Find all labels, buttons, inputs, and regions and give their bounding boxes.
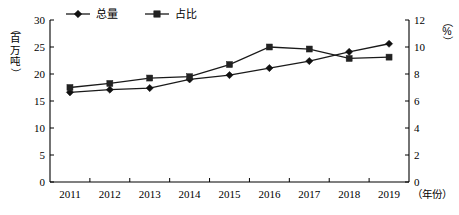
data-point-marker <box>106 86 113 93</box>
series-line <box>70 44 389 93</box>
left-axis-tick-label: 10 <box>34 122 46 134</box>
x-axis-tick-label: 2015 <box>219 188 242 200</box>
left-axis-tick-label: 30 <box>34 14 46 26</box>
chart-legend: 总量占比 <box>66 7 197 20</box>
x-axis-tick-label: 2011 <box>59 188 81 200</box>
series-total <box>66 40 392 96</box>
x-axis-unit-label: （年份） <box>412 188 452 200</box>
category-axis: 201120122013201420152016201720182019（年份） <box>50 178 452 200</box>
data-point-marker <box>266 44 272 50</box>
data-point-marker <box>306 57 313 64</box>
left-axis-tick-label: 0 <box>40 176 46 188</box>
data-point-marker <box>146 84 153 91</box>
right-value-axis: 024681012 <box>405 14 426 188</box>
x-axis-tick-label: 2017 <box>298 188 321 200</box>
data-point-marker <box>147 75 153 81</box>
right-axis-tick-label: 10 <box>414 41 426 53</box>
legend-marker-diamond-icon <box>74 10 82 18</box>
x-axis-tick-label: 2019 <box>378 188 401 200</box>
data-point-marker <box>67 85 73 91</box>
data-point-marker <box>346 55 352 61</box>
left-axis-tick-label: 25 <box>34 41 46 53</box>
legend-label: 占比 <box>175 7 197 20</box>
left-axis-tick-label: 20 <box>34 68 46 80</box>
data-point-marker <box>226 71 233 78</box>
data-point-marker <box>266 64 273 71</box>
chart-container: （ 百 万 吨 ） （ % ） 总量占比 051015202530 024681… <box>0 0 459 215</box>
data-point-marker <box>107 80 113 86</box>
left-axis-tick-label: 5 <box>40 149 46 161</box>
line-chart-plot: 总量占比 051015202530 024681012 201120122013… <box>0 0 459 215</box>
right-axis-tick-label: 2 <box>414 149 420 161</box>
right-axis-tick-label: 4 <box>414 122 420 134</box>
right-axis-tick-label: 12 <box>414 14 425 26</box>
data-series-group <box>66 40 392 96</box>
series-share <box>67 44 392 91</box>
x-axis-tick-label: 2012 <box>99 188 121 200</box>
data-point-marker <box>386 54 392 60</box>
left-axis-tick-label: 15 <box>34 95 46 107</box>
x-axis-tick-label: 2014 <box>179 188 202 200</box>
x-axis-tick-label: 2013 <box>139 188 162 200</box>
right-axis-tick-label: 0 <box>414 176 420 188</box>
data-point-marker <box>306 46 312 52</box>
right-axis-tick-label: 8 <box>414 68 420 80</box>
legend-marker-square-icon <box>154 11 160 17</box>
data-point-marker <box>187 74 193 80</box>
data-point-marker <box>385 40 392 47</box>
legend-label: 总量 <box>96 7 118 20</box>
data-point-marker <box>346 48 353 55</box>
x-axis-tick-label: 2018 <box>338 188 361 200</box>
right-axis-tick-label: 6 <box>414 95 420 107</box>
x-axis-tick-label: 2016 <box>258 188 281 200</box>
left-value-axis: 051015202530 <box>34 14 54 188</box>
data-point-marker <box>227 62 233 68</box>
